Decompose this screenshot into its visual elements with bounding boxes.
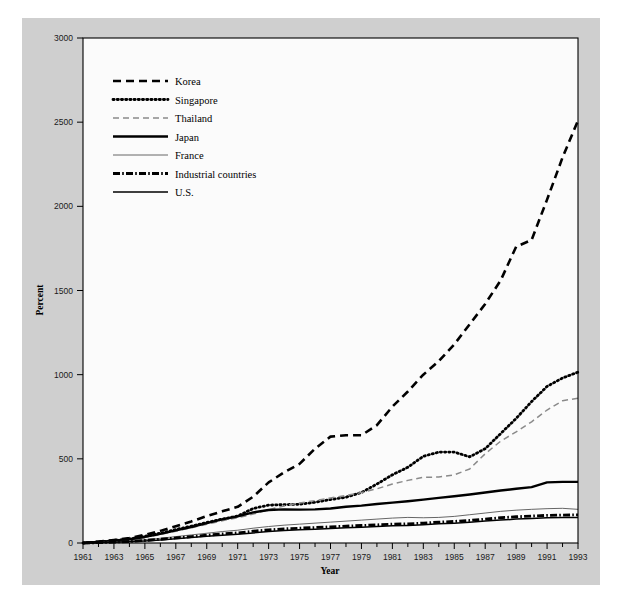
x-axis-tick-label: 1979 bbox=[352, 552, 371, 562]
y-axis-tick-label: 0 bbox=[68, 538, 73, 548]
y-axis-tick-label: 1500 bbox=[54, 286, 73, 296]
x-axis-tick-label: 1991 bbox=[538, 552, 557, 562]
plot-area-background bbox=[83, 38, 578, 543]
legend-label-industrial-countries: Industrial countries bbox=[175, 169, 256, 180]
y-axis-tick-label: 2500 bbox=[54, 117, 73, 127]
line-chart: 050010001500200025003000 196119631965196… bbox=[0, 0, 623, 602]
y-axis-tick-label: 1000 bbox=[54, 370, 73, 380]
figure-root: 050010001500200025003000 196119631965196… bbox=[0, 0, 623, 602]
x-axis-tick-label: 1965 bbox=[135, 552, 154, 562]
legend-label-japan: Japan bbox=[175, 132, 200, 143]
x-axis-tick-label: 1983 bbox=[414, 552, 433, 562]
legend-label-france: France bbox=[175, 150, 204, 161]
x-axis-tick-label: 1967 bbox=[166, 552, 185, 562]
x-axis-tick-label: 1989 bbox=[507, 552, 526, 562]
legend-label-korea: Korea bbox=[175, 76, 201, 87]
x-axis-tick-label: 1975 bbox=[290, 552, 309, 562]
legend-label-singapore: Singapore bbox=[175, 95, 218, 106]
legend-label-thailand: Thailand bbox=[175, 113, 213, 124]
x-axis-tick-label: 1993 bbox=[569, 552, 588, 562]
x-axis-tick-label: 1973 bbox=[259, 552, 278, 562]
y-axis-title: Percent bbox=[35, 284, 45, 316]
x-axis-tick-label: 1981 bbox=[383, 552, 402, 562]
y-axis-tick-label: 500 bbox=[59, 454, 73, 464]
x-axis-tick-label: 1963 bbox=[104, 552, 123, 562]
x-axis-tick-label: 1969 bbox=[197, 552, 216, 562]
x-axis-tick-label: 1971 bbox=[228, 552, 247, 562]
x-axis-tick-label: 1977 bbox=[321, 552, 340, 562]
legend-label-u-s: U.S. bbox=[175, 187, 194, 198]
x-axis-tick-label: 1987 bbox=[476, 552, 495, 562]
x-axis-tick-label: 1961 bbox=[74, 552, 93, 562]
x-axis-title: Year bbox=[321, 566, 341, 576]
y-axis-tick-label: 2000 bbox=[54, 201, 73, 211]
y-axis-tick-label: 3000 bbox=[54, 33, 73, 43]
x-axis-tick-label: 1985 bbox=[445, 552, 464, 562]
y-axis: 050010001500200025003000 bbox=[54, 33, 83, 548]
x-axis: 1961196319651967196919711973197519771979… bbox=[74, 543, 588, 562]
